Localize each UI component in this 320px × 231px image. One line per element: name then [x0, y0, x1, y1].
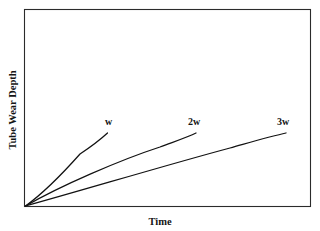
y-axis-title: Tube Wear Depth: [7, 70, 18, 149]
curve-label-3w: 3w: [277, 116, 290, 127]
curve-label-w: w: [105, 116, 113, 127]
chart-page: w 2w 3w Tube Wear Depth Time: [0, 0, 320, 231]
tube-wear-depth-chart: w 2w 3w Tube Wear Depth Time: [0, 0, 320, 231]
curve-label-2w: 2w: [188, 116, 201, 127]
x-axis-title: Time: [148, 216, 171, 227]
plot-frame: [25, 10, 311, 207]
